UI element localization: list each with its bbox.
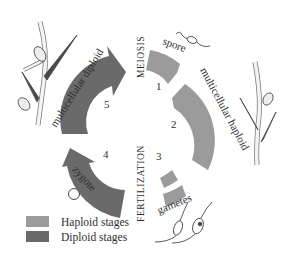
legend-diploid-label: Diploid stages xyxy=(61,231,127,243)
legend-item-diploid: Diploid stages xyxy=(26,229,129,244)
stage-2-number: 2 xyxy=(171,118,177,130)
fertilization-label: FERTILIZATION xyxy=(136,145,146,222)
stage-3-arc-upper xyxy=(160,170,178,188)
stage-4-number: 4 xyxy=(103,148,109,160)
stage-1-label: spore xyxy=(161,35,188,54)
diploid-swatch xyxy=(26,231,49,242)
stage-1-number: 1 xyxy=(156,80,162,92)
stage-1-arc xyxy=(146,50,180,84)
legend-haploid-label: Haploid stages xyxy=(61,216,129,228)
legend: Haploid stages Diploid stages xyxy=(26,214,129,244)
legend-item-haploid: Haploid stages xyxy=(26,214,129,229)
stage-5-number: 5 xyxy=(104,98,110,110)
stage-2-arc xyxy=(172,84,215,170)
stage-3-number: 3 xyxy=(156,150,162,162)
haploid-swatch xyxy=(26,216,49,227)
meiosis-label: MEIOSIS xyxy=(136,36,146,78)
